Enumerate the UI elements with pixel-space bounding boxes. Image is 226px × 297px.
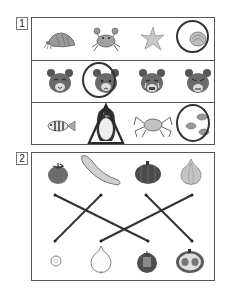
bear-smiling-icon[interactable] xyxy=(42,64,78,100)
onion-whole-icon[interactable] xyxy=(87,243,115,277)
section-number-2: 2 xyxy=(16,152,28,165)
match-line xyxy=(101,195,192,241)
match-line xyxy=(146,195,192,241)
section-number-1: 1 xyxy=(16,17,28,30)
match-line xyxy=(55,195,148,241)
pumpkin-half-icon[interactable] xyxy=(173,247,207,275)
crab-icon[interactable] xyxy=(88,21,124,57)
hermit-crab-icon[interactable] xyxy=(42,21,78,57)
striped-fish-icon[interactable] xyxy=(42,107,78,143)
king-crab-icon[interactable] xyxy=(132,107,174,143)
answer-circle-mark xyxy=(176,104,210,142)
penguin-icon[interactable] xyxy=(86,103,126,145)
match-line xyxy=(55,195,101,241)
section-2-box xyxy=(31,152,215,281)
starfish-icon[interactable] xyxy=(134,21,170,57)
bear-crying-icon[interactable] xyxy=(134,64,170,100)
cucumber-slice-icon[interactable] xyxy=(46,251,66,271)
answer-circle-mark xyxy=(176,20,209,53)
tomato-cut-icon[interactable] xyxy=(134,247,160,275)
section-1-box xyxy=(31,17,215,145)
row-sea-creatures xyxy=(32,18,214,60)
row-bears xyxy=(32,60,214,102)
bear-angry-icon[interactable] xyxy=(180,64,216,100)
answer-circle-mark xyxy=(82,62,116,98)
row-sea-animals xyxy=(32,102,214,146)
